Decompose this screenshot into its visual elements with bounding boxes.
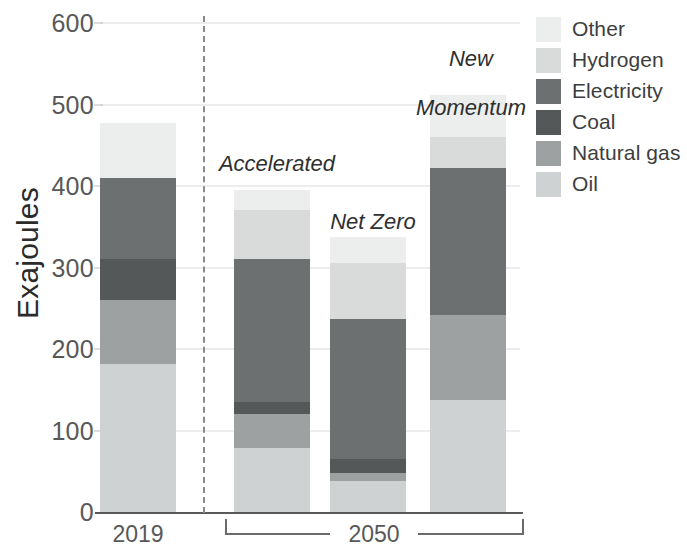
- legend-swatch-icon: [536, 17, 561, 42]
- bar-segment-hydrogen: [234, 210, 310, 259]
- legend-label: Natural gas: [572, 141, 681, 165]
- y-axis-tick-label: 300: [6, 253, 94, 282]
- bar-segment-electricity: [430, 168, 506, 315]
- legend-item-other[interactable]: Other: [536, 14, 686, 44]
- legend-swatch-icon: [536, 48, 561, 73]
- annotation-new-momentum-line2: Momentum: [416, 95, 526, 120]
- bar-segment-electricity: [330, 319, 406, 459]
- y-axis-tick-label: 400: [6, 172, 94, 201]
- bar-new-momentum: [430, 95, 506, 512]
- bar-segment-natural-gas: [430, 315, 506, 401]
- bar-segment-hydrogen: [330, 263, 406, 318]
- legend-item-electricity[interactable]: Electricity: [536, 76, 686, 106]
- bar-segment-coal: [330, 459, 406, 473]
- bar-segment-natural-gas: [330, 473, 406, 481]
- bar-segment-hydrogen: [430, 137, 506, 168]
- bar-segment-other: [100, 123, 176, 178]
- annotation-net-zero: Net Zero: [318, 210, 428, 235]
- legend-swatch-icon: [536, 172, 561, 197]
- y-axis-tickmark: [94, 104, 103, 105]
- y-axis-tick-label: 100: [6, 416, 94, 445]
- y-axis-tickmark: [94, 23, 103, 24]
- legend-item-coal[interactable]: Coal: [536, 107, 686, 137]
- stacked-bar-chart: Exajoules 6005004003002001000 Accelerate…: [0, 0, 687, 544]
- bar-segment-oil: [100, 364, 176, 512]
- bar-segment-coal: [100, 259, 176, 300]
- annotation-new-momentum: New Momentum: [412, 22, 530, 121]
- bar-segment-other: [234, 190, 310, 210]
- legend-item-oil[interactable]: Oil: [536, 169, 686, 199]
- x-axis-line: [95, 512, 523, 514]
- legend-swatch-icon: [536, 79, 561, 104]
- y-axis-tick-label: 500: [6, 90, 94, 119]
- year-divider: [203, 16, 205, 513]
- annotation-accelerated: Accelerated: [212, 152, 342, 177]
- legend-swatch-icon: [536, 141, 561, 166]
- legend: OtherHydrogenElectricityCoalNatural gasO…: [536, 14, 686, 200]
- bar-segment-coal: [234, 402, 310, 414]
- legend-label: Electricity: [572, 79, 663, 103]
- y-axis-tick-label: 0: [6, 498, 94, 527]
- bar-segment-oil: [330, 481, 406, 512]
- annotation-new-momentum-line1: New: [449, 46, 493, 71]
- y-axis-tick-labels: 6005004003002001000: [0, 0, 94, 544]
- y-axis-tick-label: 200: [6, 335, 94, 364]
- legend-label: Oil: [572, 172, 598, 196]
- bar-2019: [100, 123, 176, 512]
- bar-segment-oil: [430, 400, 506, 512]
- legend-label: Other: [572, 17, 625, 41]
- bar-segment-electricity: [234, 259, 310, 402]
- legend-item-natural-gas[interactable]: Natural gas: [536, 138, 686, 168]
- x-axis-label-2050: 2050: [348, 521, 399, 544]
- bar-segment-electricity: [100, 178, 176, 260]
- legend-label: Coal: [572, 110, 616, 134]
- legend-swatch-icon: [536, 110, 561, 135]
- x-axis-label-2019: 2019: [112, 521, 163, 544]
- bar-net-zero: [330, 237, 406, 512]
- y-axis-tick-label: 600: [6, 9, 94, 38]
- bar-segment-oil: [234, 448, 310, 512]
- bar-accelerated: [234, 190, 310, 512]
- bar-segment-natural-gas: [234, 414, 310, 448]
- legend-label: Hydrogen: [572, 48, 664, 72]
- bar-segment-natural-gas: [100, 300, 176, 364]
- bar-segment-other: [330, 237, 406, 263]
- legend-item-hydrogen[interactable]: Hydrogen: [536, 45, 686, 75]
